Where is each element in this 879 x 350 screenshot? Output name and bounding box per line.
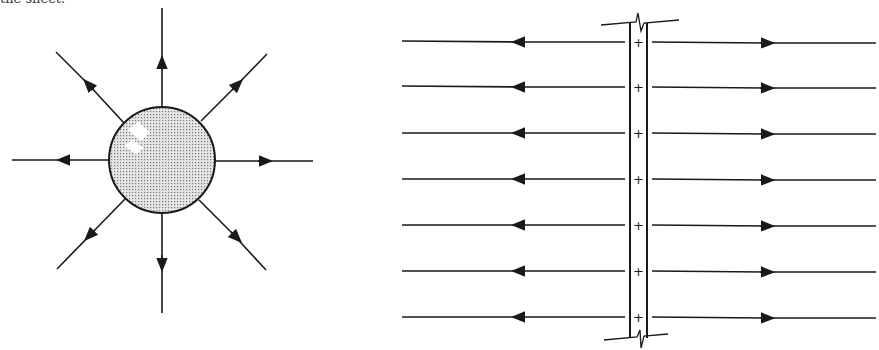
point-charge-figure [12, 8, 313, 313]
positive-charge-marks: + + + + + + + [633, 35, 644, 325]
plus-sign: + [633, 218, 644, 233]
plus-sign: + [633, 310, 644, 325]
charged-sheet-figure: + + + + + + + [402, 13, 876, 348]
diagram-canvas: + + + + + + + [0, 0, 879, 350]
plus-sign: + [633, 126, 644, 141]
plus-sign: + [633, 80, 644, 95]
plus-sign: + [633, 172, 644, 187]
plus-sign: + [633, 35, 644, 50]
plus-sign: + [633, 264, 644, 279]
charged-sphere [109, 107, 215, 213]
